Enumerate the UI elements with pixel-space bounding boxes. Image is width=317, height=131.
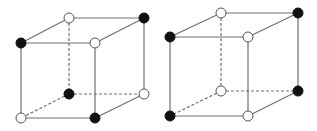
visible-edge <box>95 94 144 118</box>
visible-edge <box>170 13 221 37</box>
cube-edges <box>21 18 144 118</box>
filled-vertex-back-bottom-left <box>64 89 74 99</box>
cube-right <box>165 8 303 121</box>
cube-vertices <box>165 8 303 121</box>
filled-vertex-front-top-left <box>16 38 26 48</box>
cube-vertices <box>16 13 149 123</box>
filled-vertex-back-top-right <box>139 13 149 23</box>
open-vertex-front-bottom-left <box>16 113 26 123</box>
cube-left <box>16 13 149 123</box>
cube-diagram <box>0 0 317 131</box>
open-vertex-front-top-right <box>90 38 100 48</box>
cube-diagram-svg <box>0 0 317 131</box>
open-vertex-back-bottom-left <box>216 86 226 96</box>
filled-vertex-front-bottom-right <box>90 113 100 123</box>
filled-vertex-front-top-left <box>165 32 175 42</box>
open-vertex-back-top-left <box>216 8 226 18</box>
hidden-edge <box>21 94 69 118</box>
open-vertex-back-top-left <box>64 13 74 23</box>
visible-edge <box>248 13 298 37</box>
visible-edge <box>95 18 144 43</box>
open-vertex-front-top-right <box>243 32 253 42</box>
open-vertex-back-bottom-right <box>139 89 149 99</box>
hidden-edge <box>170 91 221 116</box>
visible-edge <box>21 18 69 43</box>
open-vertex-front-bottom-right <box>243 111 253 121</box>
filled-vertex-front-bottom-left <box>165 111 175 121</box>
filled-vertex-back-top-right <box>293 8 303 18</box>
filled-vertex-back-bottom-right <box>293 86 303 96</box>
cube-edges <box>170 13 298 116</box>
visible-edge <box>248 91 298 116</box>
